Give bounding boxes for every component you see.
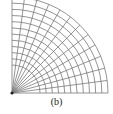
polar-mesh-diagram <box>0 0 113 100</box>
mesh-spoke <box>12 25 80 93</box>
figure-caption: (b) <box>0 96 113 108</box>
origin-point <box>10 91 13 94</box>
